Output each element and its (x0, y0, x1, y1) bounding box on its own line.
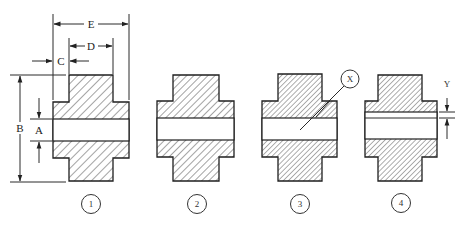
svg-text:3: 3 (298, 199, 303, 209)
label-a: A (35, 124, 43, 136)
label-c: C (57, 55, 64, 67)
part-3-bore (262, 118, 337, 140)
figure-number-2: 2 (188, 195, 207, 214)
svg-text:1: 1 (89, 199, 94, 209)
label-y: Y (444, 79, 451, 89)
part-1-bore (53, 119, 129, 141)
diagram-canvas: E D C B A (0, 0, 466, 229)
label-e: E (88, 18, 95, 30)
svg-text:2: 2 (195, 199, 200, 209)
label-x: X (347, 74, 354, 84)
dimension-y: Y (439, 79, 455, 139)
figure-number-1: 1 (82, 195, 101, 214)
svg-text:4: 4 (399, 198, 404, 208)
figure-number-3: 3 (291, 195, 310, 214)
label-b: B (16, 122, 23, 134)
dimension-d: D (69, 38, 113, 74)
figure-3: X 3 (262, 70, 359, 214)
label-d: D (87, 40, 95, 52)
figure-2: 2 (157, 75, 234, 214)
part-4-bore (365, 112, 437, 139)
dimension-c: C (32, 55, 89, 67)
figure-4: Y 4 (365, 75, 455, 213)
part-2-bore (157, 118, 234, 140)
figure-number-4: 4 (392, 194, 411, 213)
figure-1: E D C B A (10, 14, 129, 214)
dimension-a: A (30, 98, 52, 163)
